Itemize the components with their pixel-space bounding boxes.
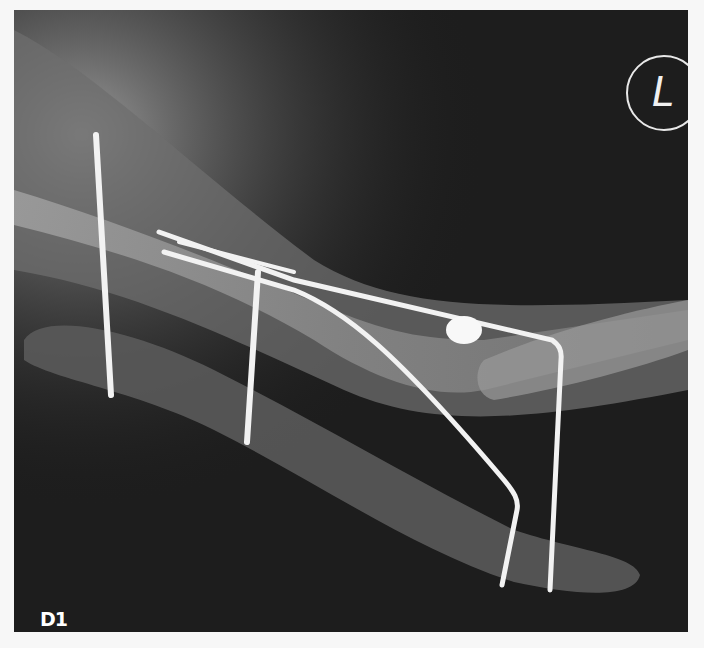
xray-graphic: [14, 10, 688, 632]
side-marker-letter: L: [652, 69, 674, 115]
radiopaque-marker: [446, 316, 482, 344]
panel-label: D1: [40, 608, 67, 630]
xray-image: L D1: [14, 10, 688, 632]
